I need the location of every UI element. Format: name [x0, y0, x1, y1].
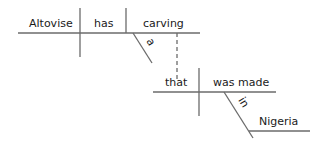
word-subject: Altovise [29, 17, 73, 30]
word-preposition-object: Nigeria [259, 115, 298, 128]
word-relative-verb: was made [213, 76, 269, 89]
modifier-line-a [133, 33, 152, 63]
word-relative-subject: that [165, 76, 188, 89]
word-direct-object: carving [143, 17, 184, 30]
word-verb: has [94, 17, 114, 30]
word-preposition: in [235, 95, 251, 110]
sentence-diagram: Altovise has carving a that was made in … [0, 0, 326, 148]
word-modifier-a: a [143, 36, 158, 49]
